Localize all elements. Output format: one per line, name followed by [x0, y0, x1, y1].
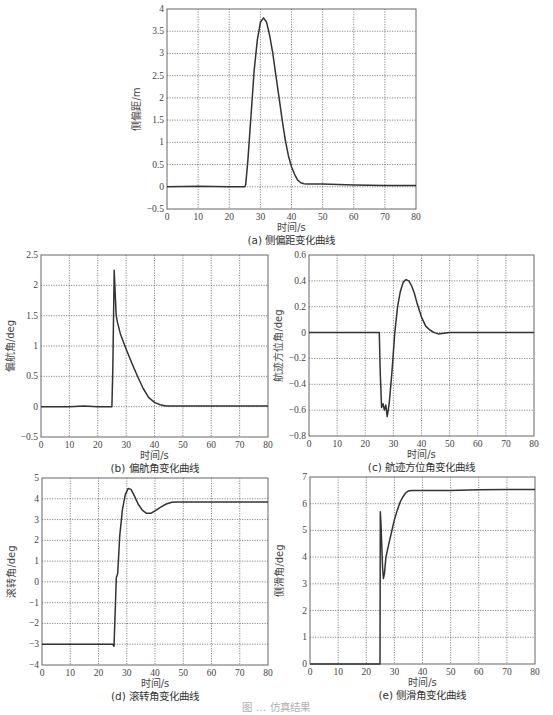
y-tick-label: 0	[33, 402, 38, 412]
x-tick-label: 30	[121, 440, 131, 450]
x-tick-label: 50	[318, 212, 328, 222]
y-tick-label: 1.5	[152, 115, 164, 125]
grid-lines	[310, 477, 535, 664]
y-tick-label: 1.5	[26, 311, 38, 321]
chart-b: 01020304050607080−0.500.511.522.5时间/s偏航角…	[4, 250, 273, 474]
figure-caption: 图 … 仿真结果	[242, 701, 310, 713]
x-tick-label: 40	[150, 668, 160, 678]
x-tick-label: 40	[417, 439, 427, 449]
y-tick-label: 7	[302, 472, 307, 482]
chart-caption: (a) 侧偏距变化曲线	[248, 234, 337, 246]
x-tick-label: 40	[150, 440, 160, 450]
x-tick-label: 70	[380, 212, 390, 222]
y-tick-label: 1	[33, 341, 38, 351]
x-tick-label: 60	[207, 668, 217, 678]
y-axis-label: 侧滑角/deg	[273, 544, 285, 596]
y-tick-label: −0.2	[289, 353, 306, 363]
x-tick-label: 30	[390, 667, 400, 677]
y-axis-label: 航迹方位角/deg	[272, 309, 284, 381]
x-tick-label: 70	[235, 440, 245, 450]
y-tick-label: −0.5	[147, 204, 164, 214]
chart-caption: (e) 侧滑角变化曲线	[379, 689, 468, 701]
y-tick-label: 1	[159, 137, 164, 147]
y-tick-label: 0	[159, 182, 164, 192]
y-axis-label: 偏航角/deg	[4, 320, 16, 372]
x-tick-label: 0	[307, 439, 312, 449]
y-tick-label: 0.4	[294, 276, 306, 286]
chart-e: 0102030405060708001234567时间/s侧滑角/deg(e) …	[273, 472, 540, 701]
chart-caption: (d) 滚转角变化曲线	[111, 690, 200, 702]
y-tick-label: −4	[29, 660, 39, 670]
y-tick-label: 4	[34, 494, 39, 504]
x-tick-label: 80	[411, 212, 421, 222]
y-tick-label: −0.4	[289, 379, 306, 389]
x-tick-label: 20	[225, 212, 235, 222]
x-tick-label: 10	[65, 440, 75, 450]
x-tick-label: 80	[529, 439, 539, 449]
x-tick-label: 70	[502, 667, 512, 677]
y-tick-label: 2.5	[152, 71, 164, 81]
data-series-line	[42, 488, 268, 646]
x-tick-label: 50	[179, 668, 189, 678]
y-axis-label: 侧偏距/m	[130, 87, 142, 130]
y-tick-label: 1	[302, 632, 307, 642]
y-tick-label: 2.5	[26, 250, 38, 260]
grid-lines	[41, 255, 268, 437]
x-tick-label: 40	[287, 212, 297, 222]
y-tick-label: 3	[302, 579, 307, 589]
x-tick-label: 50	[178, 440, 188, 450]
y-axis-label: 滚转角/deg	[5, 545, 17, 597]
x-tick-label: 80	[263, 440, 273, 450]
x-tick-label: 30	[122, 668, 132, 678]
x-axis-label: 时间/s	[140, 449, 169, 461]
x-tick-label: 20	[361, 439, 371, 449]
grid-lines	[309, 255, 534, 436]
x-tick-label: 20	[94, 668, 104, 678]
y-tick-label: 2	[159, 93, 164, 103]
y-tick-label: 2	[34, 535, 39, 545]
x-tick-label: 10	[332, 439, 342, 449]
x-tick-label: 30	[256, 212, 266, 222]
grid-lines	[42, 478, 268, 665]
y-tick-label: 1	[34, 556, 39, 566]
x-tick-label: 50	[445, 439, 455, 449]
y-tick-label: 2	[302, 606, 307, 616]
y-tick-label: 0	[302, 659, 307, 669]
chart-caption: (b) 偏航角变化曲线	[110, 462, 199, 474]
x-tick-label: 50	[446, 667, 456, 677]
x-tick-label: 0	[39, 440, 44, 450]
y-tick-label: 2	[33, 280, 38, 290]
x-tick-label: 0	[308, 667, 313, 677]
y-tick-label: 5	[34, 473, 39, 483]
x-tick-label: 10	[333, 667, 343, 677]
chart-c: 01020304050607080−0.8−0.6−0.4−0.200.20.4…	[272, 250, 539, 473]
y-tick-label: −0.6	[289, 405, 306, 415]
y-tick-label: 0	[34, 577, 39, 587]
chart-d: 01020304050607080−4−3−2−1012345时间/s滚转角/d…	[5, 473, 273, 702]
figure-canvas: 01020304050607080−0.500.511.522.533.54时间…	[0, 0, 553, 715]
x-tick-label: 60	[474, 667, 484, 677]
y-tick-label: 0.2	[294, 302, 306, 312]
x-tick-label: 60	[349, 212, 359, 222]
y-tick-label: 0.5	[152, 160, 164, 170]
x-tick-label: 60	[473, 439, 483, 449]
y-tick-label: 5	[302, 525, 307, 535]
x-axis-label: 时间/s	[408, 676, 437, 688]
y-tick-label: 3.5	[152, 26, 164, 36]
y-tick-label: 6	[302, 499, 307, 509]
x-tick-label: 20	[93, 440, 103, 450]
x-axis-label: 时间/s	[277, 221, 306, 233]
x-tick-label: 70	[235, 668, 245, 678]
x-tick-label: 60	[207, 440, 217, 450]
x-tick-label: 20	[362, 667, 372, 677]
y-tick-label: 4	[159, 4, 164, 14]
y-tick-label: 3	[159, 48, 164, 58]
y-tick-label: −0.5	[21, 432, 38, 442]
y-tick-label: −2	[29, 618, 39, 628]
y-tick-label: −0.8	[289, 431, 306, 441]
x-tick-label: 70	[501, 439, 511, 449]
y-tick-label: 0.5	[26, 371, 38, 381]
x-tick-label: 10	[66, 668, 76, 678]
x-tick-label: 10	[193, 212, 203, 222]
y-tick-label: 0.6	[294, 250, 306, 260]
